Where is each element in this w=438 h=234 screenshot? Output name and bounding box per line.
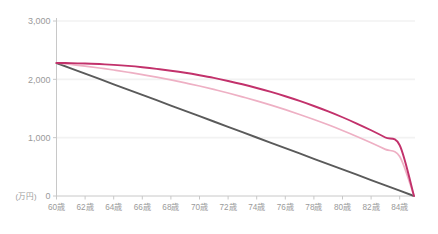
x-axis-labels-group: 60歳62歳64歳66歳68歳70歳72歳74歳76歳78歳80歳82歳84歳 [48, 202, 408, 212]
y-axis-unit-label: (万円) [15, 192, 37, 201]
x-tick-marks-group [57, 196, 400, 200]
x-axis-tick-label: 80歳 [334, 202, 351, 212]
y-axis-tick-label: 0 [45, 191, 50, 201]
line-chart: 01,0002,0003,000 60歳62歳64歳66歳68歳70歳72歳74… [0, 0, 438, 234]
x-axis-tick-label: 62歳 [77, 202, 94, 212]
axis-lines-group [53, 18, 415, 196]
x-axis-tick-label: 68歳 [162, 202, 179, 212]
y-axis-tick-label: 3,000 [28, 16, 51, 26]
chart-container: 01,0002,0003,000 60歳62歳64歳66歳68歳70歳72歳74… [0, 0, 438, 234]
x-axis-tick-label: 72歳 [220, 202, 237, 212]
x-axis-tick-label: 76歳 [277, 202, 294, 212]
x-axis-tick-label: 84歳 [391, 202, 408, 212]
x-axis-tick-label: 64歳 [105, 202, 122, 212]
y-axis-labels-group: 01,0002,0003,000 [28, 16, 51, 201]
unit-label-group: (万円) [15, 192, 37, 201]
x-axis-tick-label: 70歳 [191, 202, 208, 212]
x-axis-tick-label: 78歳 [305, 202, 322, 212]
x-axis-tick-label: 66歳 [134, 202, 151, 212]
y-axis-tick-label: 1,000 [28, 133, 51, 143]
gridlines-group [57, 21, 416, 138]
x-axis-tick-label: 82歳 [363, 202, 380, 212]
y-axis-tick-label: 2,000 [28, 75, 51, 85]
series-paths-group [57, 63, 415, 196]
x-axis-tick-label: 74歳 [248, 202, 265, 212]
x-axis-tick-label: 60歳 [48, 202, 65, 212]
